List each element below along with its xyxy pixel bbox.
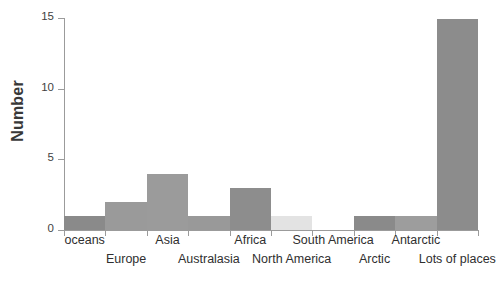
bar-lots-of-places [437, 19, 478, 230]
x-axis-label-arctic: Arctic [359, 252, 390, 266]
y-axis-title: Number [9, 66, 27, 156]
x-axis-label-north-america: North America [252, 252, 331, 266]
bar-asia [147, 174, 188, 230]
bar-oceans [64, 216, 105, 230]
x-axis-label-oceans: oceans [65, 233, 105, 247]
bar-arctic [354, 216, 395, 230]
bar-europe [105, 202, 147, 230]
x-axis-label-antarctic: Antarctic [392, 233, 441, 247]
x-axis-label-lots-of-places: Lots of places [419, 252, 496, 266]
x-axis-labels: oceansEuropeAsiaAustralasiaAfricaNorth A… [0, 233, 495, 278]
bar-australasia [188, 216, 230, 230]
x-axis-label-south-america: South America [292, 233, 373, 247]
plot-area: 051015 [64, 19, 478, 231]
bar-antarctic [395, 216, 437, 230]
y-tick-label: 15 [41, 10, 54, 22]
bars-layer [64, 19, 478, 230]
x-axis-label-australasia: Australasia [178, 252, 240, 266]
x-axis-label-africa: Africa [234, 233, 266, 247]
x-axis-label-asia: Asia [155, 233, 179, 247]
y-tick-label: 5 [48, 151, 54, 163]
y-tick-label: 10 [41, 81, 54, 93]
x-axis-label-europe: Europe [106, 252, 146, 266]
bar-north-america [271, 216, 312, 230]
bar-africa [230, 188, 271, 230]
